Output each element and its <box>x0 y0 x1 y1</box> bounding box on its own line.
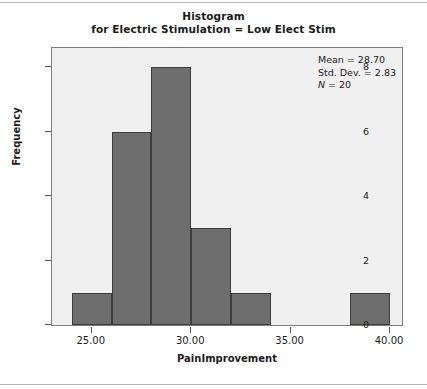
y-axis-tick-label: 2 <box>339 254 369 265</box>
y-axis-title: Frequency <box>11 47 22 227</box>
chart-title-line-2: for Electric Stimulation = Low Elect Sti… <box>0 23 427 36</box>
histogram-bar <box>231 293 271 325</box>
y-axis-tick-label: 8 <box>339 61 369 72</box>
x-axis-tick-label: 30.00 <box>160 335 220 346</box>
y-axis-tick-mark <box>45 324 51 325</box>
stat-sample-size-symbol: N <box>318 79 325 90</box>
chart-title: Histogram for Electric Stimulation = Low… <box>0 10 427 36</box>
y-axis-tick-mark <box>45 131 51 132</box>
x-axis-tick-mark <box>290 327 291 333</box>
x-axis-title: PainImprovement <box>51 353 403 364</box>
histogram-bar <box>151 67 191 325</box>
stat-sample-size: N = 20 <box>318 79 396 92</box>
x-axis-tick-label: 40.00 <box>359 335 419 346</box>
y-axis-tick-mark <box>45 195 51 196</box>
statistics-annotation: Mean = 28.70 Std. Dev. = 2.83 N = 20 <box>318 54 396 92</box>
x-axis-tick-mark <box>389 327 390 333</box>
x-axis-tick-label: 35.00 <box>260 335 320 346</box>
y-axis-tick-mark <box>45 260 51 261</box>
plot-frame: Mean = 28.70 Std. Dev. = 2.83 N = 20 <box>51 47 403 326</box>
x-axis-tick-mark <box>91 327 92 333</box>
y-axis-tick-label: 6 <box>339 125 369 136</box>
histogram-bar <box>112 132 152 325</box>
histogram-figure: Histogram for Electric Stimulation = Low… <box>0 0 427 389</box>
chart-title-line-1: Histogram <box>0 10 427 23</box>
figure-top-rule <box>0 2 427 3</box>
y-axis-tick-label: 0 <box>339 319 369 330</box>
x-axis-tick-label: 25.00 <box>61 335 121 346</box>
x-axis-tick-mark <box>190 327 191 333</box>
histogram-bar <box>191 228 231 325</box>
stat-sample-size-value: = 20 <box>325 79 351 90</box>
y-axis-tick-label: 4 <box>339 190 369 201</box>
y-axis-tick-mark <box>45 66 51 67</box>
figure-bottom-rule <box>0 384 427 385</box>
histogram-bar <box>72 293 112 325</box>
